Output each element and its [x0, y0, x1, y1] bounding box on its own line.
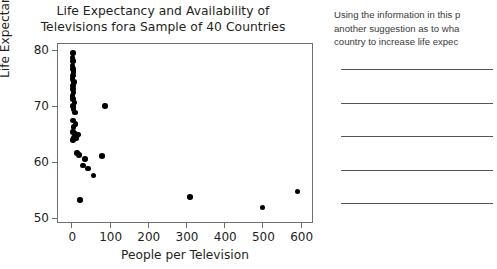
x-axis-tick-label: 200: [137, 230, 160, 245]
data-point: [102, 103, 108, 109]
x-axis-tick-label: 400: [214, 230, 237, 245]
data-point: [85, 166, 91, 172]
y-axis-label: Life Expectancy: [0, 0, 12, 78]
x-axis-tick-label: 100: [99, 230, 122, 245]
data-point: [72, 110, 78, 116]
x-axis-tick-label: 0: [69, 230, 77, 245]
answer-ruled-lines: [331, 0, 489, 269]
scatter-plot-figure: Life Expectancy and Availability of Tele…: [0, 0, 322, 269]
x-axis-tick: 600: [301, 222, 302, 228]
y-axis-tick: 50: [52, 218, 57, 219]
y-axis-tick-label: 70: [34, 99, 49, 114]
answer-line[interactable]: [341, 203, 493, 204]
data-point: [70, 137, 76, 143]
y-axis-tick: 80: [52, 50, 57, 51]
answer-line[interactable]: [341, 170, 493, 171]
y-axis-tick-label: 50: [34, 211, 49, 226]
y-axis-tick: 70: [52, 106, 57, 107]
data-points-layer: [58, 44, 312, 222]
x-axis-label: People per Television: [57, 248, 313, 262]
data-point: [99, 153, 105, 159]
x-axis-tick: 0: [71, 222, 72, 228]
data-point: [187, 194, 193, 200]
chart-title-line-1: Life Expectancy and Availability of: [8, 3, 318, 19]
x-axis-tick: 400: [224, 222, 225, 228]
answer-line[interactable]: [341, 136, 493, 137]
answer-line[interactable]: [341, 103, 493, 104]
data-point: [76, 152, 82, 158]
chart-title: Life Expectancy and Availability of Tele…: [8, 3, 318, 35]
data-point: [82, 156, 88, 162]
x-axis-tick-label: 600: [290, 230, 313, 245]
x-axis-tick: 200: [148, 222, 149, 228]
x-axis-tick: 300: [186, 222, 187, 228]
y-axis-tick-label: 60: [34, 155, 49, 170]
data-point: [260, 205, 266, 211]
data-point: [91, 173, 97, 179]
data-point: [77, 197, 83, 203]
x-axis-tick: 500: [262, 222, 263, 228]
plot-area: 50607080 0100200300400500600: [57, 43, 313, 223]
x-axis-tick: 100: [110, 222, 111, 228]
answer-line[interactable]: [341, 69, 493, 70]
x-axis-tick-label: 300: [176, 230, 199, 245]
chart-title-line-2: Televisions fora Sample of 40 Countries: [8, 19, 318, 35]
question-panel: Using the information in this p another …: [331, 0, 489, 269]
y-axis-tick: 60: [52, 162, 57, 163]
data-point: [295, 189, 301, 195]
y-axis-tick-label: 80: [34, 43, 49, 58]
x-axis-tick-label: 500: [252, 230, 275, 245]
